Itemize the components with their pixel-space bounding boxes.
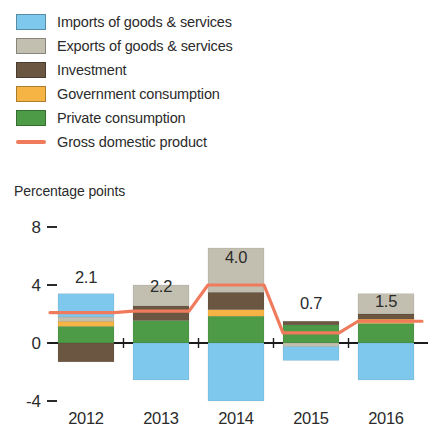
bar-segment-private xyxy=(58,326,114,343)
bar-segment-private xyxy=(208,316,264,343)
legend-swatch-private xyxy=(16,110,46,126)
bar-segment-investment xyxy=(58,343,114,362)
x-tick-label: 2012 xyxy=(68,409,104,427)
y-tick-label: -4 xyxy=(26,392,41,411)
bar-value-label: 4.0 xyxy=(225,248,247,266)
legend-item-gdp: Gross domestic product xyxy=(16,130,416,154)
legend-item-government: Government consumption xyxy=(16,82,416,106)
stacked-bar-chart: -4048 2.12.24.00.71.5 201220132014201520… xyxy=(0,205,428,428)
bar-value-label: 2.2 xyxy=(150,277,172,295)
bar-segment-private xyxy=(133,321,189,343)
legend-item-exports: Exports of goods & services xyxy=(16,34,416,58)
x-axis-ticks: 20122013201420152016 xyxy=(68,409,404,427)
legend-item-imports: Imports of goods & services xyxy=(16,10,416,34)
legend-label-gdp: Gross domestic product xyxy=(57,135,207,150)
bar-segment-investment xyxy=(358,314,414,319)
bar-segment-investment xyxy=(208,292,264,309)
legend-label-government: Government consumption xyxy=(57,87,220,102)
x-tick-label: 2015 xyxy=(293,409,329,427)
legend-swatch-exports xyxy=(16,38,46,54)
bar-segment-exports xyxy=(283,343,339,347)
y-axis-title: Percentage points xyxy=(14,183,125,199)
x-tick-label: 2014 xyxy=(218,409,254,427)
legend-swatch-imports xyxy=(16,14,46,30)
legend-item-private: Private consumption xyxy=(16,106,416,130)
bar-value-label: 1.5 xyxy=(375,292,397,310)
legend-line-gdp xyxy=(16,134,46,150)
legend-label-imports: Imports of goods & services xyxy=(57,15,232,30)
bar-segment-imports xyxy=(358,343,414,380)
bar-group xyxy=(58,248,414,401)
bar-segment-private xyxy=(358,323,414,343)
bar-value-label: 2.1 xyxy=(75,268,97,286)
y-tick-label: 4 xyxy=(32,276,41,295)
legend-swatch-government xyxy=(16,86,46,102)
bar-segment-government xyxy=(58,321,114,326)
bar-segment-investment xyxy=(283,321,339,325)
bar-segment-imports xyxy=(208,343,264,401)
y-tick-label: 0 xyxy=(32,334,41,353)
bar-segment-imports xyxy=(283,347,339,361)
chart-plot-area: -4048 2.12.24.00.71.5 201220132014201520… xyxy=(0,205,428,428)
legend-item-investment: Investment xyxy=(16,58,416,82)
bar-value-label: 0.7 xyxy=(300,294,322,312)
legend-swatch-investment xyxy=(16,62,46,78)
y-tick-label: 8 xyxy=(32,218,41,237)
chart-legend: Imports of goods & services Exports of g… xyxy=(16,10,416,154)
legend-label-exports: Exports of goods & services xyxy=(57,39,233,54)
bar-segment-exports xyxy=(58,317,114,321)
legend-label-investment: Investment xyxy=(57,63,126,78)
bar-segment-government xyxy=(208,310,264,317)
y-axis-ticks: -4048 xyxy=(26,218,57,411)
bar-segment-investment xyxy=(133,306,189,321)
bar-segment-imports xyxy=(133,343,189,380)
x-tick-label: 2013 xyxy=(143,409,179,427)
legend-label-private: Private consumption xyxy=(57,111,186,126)
x-tick-label: 2016 xyxy=(368,409,404,427)
